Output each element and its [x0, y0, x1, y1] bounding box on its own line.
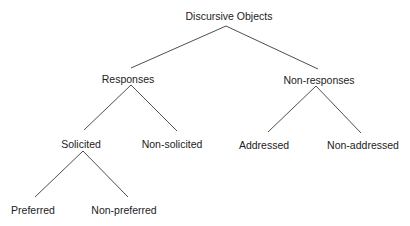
edge-responses-non-solicited — [131, 85, 177, 131]
node-preferred: Preferred — [11, 204, 55, 216]
edge-solicited-preferred — [35, 151, 83, 197]
tree-edges — [0, 0, 410, 226]
edge-solicited-non-preferred — [83, 151, 128, 197]
edge-root-non-responses — [226, 26, 318, 69]
node-non-preferred: Non-preferred — [91, 204, 156, 216]
edge-non-responses-addressed — [268, 86, 316, 132]
node-discursive-objects: Discursive Objects — [186, 10, 273, 22]
node-responses: Responses — [102, 73, 155, 85]
node-non-responses: Non-responses — [283, 74, 354, 86]
edge-root-responses — [131, 26, 226, 68]
node-addressed: Addressed — [239, 139, 289, 151]
node-non-solicited: Non-solicited — [142, 138, 203, 150]
edge-responses-solicited — [84, 85, 131, 130]
node-non-addressed: Non-addressed — [327, 139, 399, 151]
edge-non-responses-non-addressed — [316, 86, 361, 133]
node-solicited: Solicited — [61, 138, 101, 150]
tree-diagram: Discursive Objects Responses Non-respons… — [0, 0, 410, 226]
